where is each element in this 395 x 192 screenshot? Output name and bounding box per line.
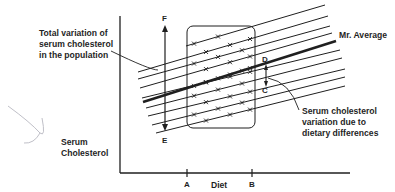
point-d: D [262,55,268,64]
point-f: F [162,14,167,23]
point-c: C [262,86,268,95]
point-b: B [249,180,255,189]
mr-average-label: Mr. Average [339,30,387,40]
total-variation-label-1: Total variation of [39,28,108,38]
total-variation-label-2: serum cholesterol [39,39,113,49]
mr-average-line [143,41,336,102]
arrow-up-icon [162,25,168,32]
total-variation-label-3: in the population [39,50,108,60]
x-axis-label: Diet [211,180,227,190]
y-axis-label-1: Serum [61,137,88,147]
dietary-variation-label-3: dietary differences [302,128,378,138]
dietary-variation-leader [268,78,299,110]
total-variation-leader [111,51,158,70]
dietary-variation-label-1: Serum cholesterol [302,106,377,116]
check-mark-icon [8,106,44,143]
dietary-variation-label-2: variation due to [302,117,366,127]
y-axis-label-2: Cholesterol [61,148,108,158]
point-a: A [184,180,190,189]
point-e: E [162,136,167,145]
